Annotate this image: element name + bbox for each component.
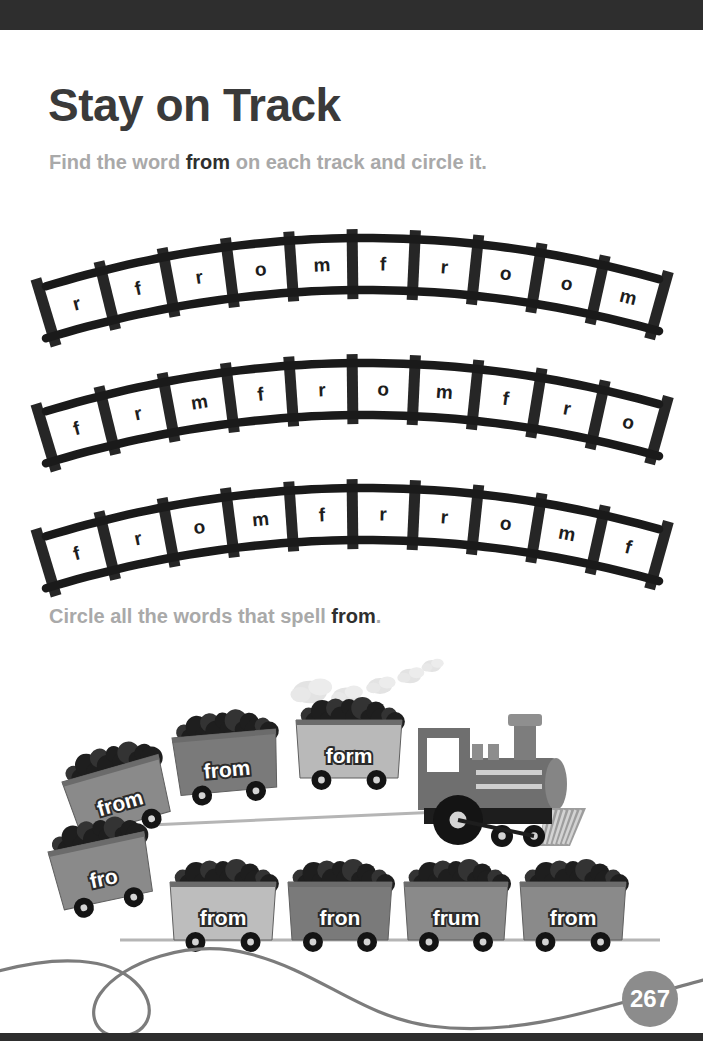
instruction-line-2: Circle all the words that spell from.: [49, 606, 381, 626]
track-graphic: fromfrromf: [40, 458, 665, 578]
instruction-1-before: Find the word: [49, 151, 186, 173]
car-word-label[interactable]: from: [203, 756, 251, 783]
car-word-label[interactable]: from: [200, 906, 247, 929]
page-title: Stay on Track: [48, 82, 341, 128]
instruction-1-word: from: [186, 151, 230, 173]
decorative-swirl-line: [0, 930, 703, 1041]
worksheet-page: Stay on Track Find the word from on each…: [0, 0, 703, 1041]
track-2[interactable]: frmfromfro: [40, 333, 665, 453]
track-letter-cell[interactable]: m: [435, 381, 453, 403]
instruction-2-before: Circle all the words that spell: [49, 605, 331, 627]
train-car[interactable]: form: [296, 697, 405, 790]
instruction-2-after: .: [376, 605, 382, 627]
train-illustration[interactable]: formfromfromfrofromfronfrumfrom: [0, 640, 703, 970]
smokestack: [514, 722, 536, 760]
track-graphic: rfromfroom: [40, 208, 665, 328]
instruction-line-1: Find the word from on each track and cir…: [49, 152, 487, 172]
track-letter-cell[interactable]: m: [313, 254, 331, 276]
track-3[interactable]: fromfrromf: [40, 458, 665, 578]
train-graphic: formfromfromfrofromfronfrumfrom: [0, 640, 703, 970]
train-car[interactable]: from: [170, 706, 285, 808]
track-letter-cell[interactable]: r: [318, 379, 327, 400]
instruction-2-word: from: [331, 605, 375, 627]
track-letter-cell[interactable]: f: [380, 254, 387, 275]
page-number-badge: 267: [622, 971, 678, 1027]
track-letter-cell[interactable]: m: [251, 508, 270, 531]
track-letter-cell[interactable]: m: [189, 390, 209, 413]
track-letter-cell[interactable]: r: [379, 504, 387, 525]
cab-window: [427, 738, 459, 772]
car-word-label[interactable]: frum: [433, 906, 480, 929]
car-word-label[interactable]: from: [550, 906, 597, 929]
top-border-band: [0, 0, 703, 30]
track-1[interactable]: rfromfroom: [40, 208, 665, 328]
track-letter-cell[interactable]: o: [377, 379, 389, 400]
track-letter-cell[interactable]: o: [254, 258, 268, 280]
car-word-label[interactable]: fron: [320, 906, 361, 929]
track-graphic: frmfromfro: [40, 333, 665, 453]
bottom-border-band: [0, 1033, 703, 1041]
smoke-puffs: [290, 659, 443, 705]
car-word-label[interactable]: form: [326, 744, 373, 767]
instruction-1-after: on each track and circle it.: [230, 151, 487, 173]
